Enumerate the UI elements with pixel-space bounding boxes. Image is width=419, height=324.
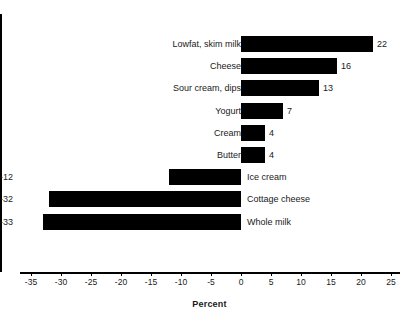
bar-row: Whole milk-33	[0, 214, 419, 230]
x-axis-title: Percent	[0, 299, 419, 309]
bar[interactable]	[49, 191, 241, 207]
zero-axis-line	[0, 14, 2, 272]
x-axis-tick-label: 10	[296, 277, 305, 287]
x-axis-tick-label: -5	[207, 277, 215, 287]
x-axis-tick-label: 25	[386, 277, 395, 287]
x-axis-tick-label: 20	[356, 277, 365, 287]
bar-row: Yogurt7	[0, 103, 419, 119]
bar-value-label: -33	[0, 216, 47, 227]
bar[interactable]	[241, 80, 319, 96]
bar-row: Lowfat, skim milk22	[0, 36, 419, 52]
bar[interactable]	[241, 58, 337, 74]
bar-row: Sour cream, dips13	[0, 80, 419, 96]
bar-value-label: 22	[373, 39, 419, 50]
x-axis-tick	[151, 272, 152, 276]
x-axis-tick-label: -25	[85, 277, 97, 287]
bar-row: Cream4	[0, 125, 419, 141]
bar[interactable]	[43, 214, 241, 230]
x-axis-tick	[121, 272, 122, 276]
x-axis-tick	[241, 272, 242, 276]
bar-row: Cottage cheese-32	[0, 191, 419, 207]
x-axis-tick	[181, 272, 182, 276]
bar-value-label: 4	[265, 150, 419, 161]
bar-category-label: Ice cream	[241, 172, 419, 183]
bar-value-label: -32	[0, 194, 53, 205]
bar-chart: Lowfat, skim milk22Cheese16Sour cream, d…	[0, 0, 419, 324]
bar[interactable]	[241, 103, 283, 119]
x-axis-tick	[211, 272, 212, 276]
x-axis-tick-label: 5	[269, 277, 274, 287]
plot-area: Lowfat, skim milk22Cheese16Sour cream, d…	[0, 0, 419, 272]
bar-category-label: Cheese	[0, 61, 246, 72]
x-axis-tick-label: -20	[115, 277, 127, 287]
bar-value-label: 13	[319, 83, 419, 94]
bar-category-label: Yogurt	[0, 105, 246, 116]
x-axis-tick	[271, 272, 272, 276]
x-axis-tick-label: -35	[25, 277, 37, 287]
bar-category-label: Butter	[0, 150, 246, 161]
bar-row: Ice cream-12	[0, 169, 419, 185]
x-axis-tick	[31, 272, 32, 276]
bar-category-label: Cream	[0, 127, 246, 138]
x-axis-tick-label: 0	[239, 277, 244, 287]
bar-value-label: 4	[265, 127, 419, 138]
bar-category-label: Whole milk	[241, 216, 419, 227]
x-axis-tick	[301, 272, 302, 276]
x-axis-tick-label: -10	[175, 277, 187, 287]
x-axis-line	[20, 272, 400, 274]
x-axis-tick-label: 15	[326, 277, 335, 287]
x-axis-tick	[331, 272, 332, 276]
bar-category-label: Cottage cheese	[241, 194, 419, 205]
x-axis-tick	[91, 272, 92, 276]
bar-value-label: -12	[0, 172, 173, 183]
bar-category-label: Sour cream, dips	[0, 83, 246, 94]
bar-row: Butter4	[0, 147, 419, 163]
x-axis-tick	[61, 272, 62, 276]
bar[interactable]	[169, 169, 241, 185]
bar-category-label: Lowfat, skim milk	[0, 39, 246, 50]
x-axis-tick-label: -15	[145, 277, 157, 287]
bar-row: Cheese16	[0, 58, 419, 74]
x-axis-tick-label: -30	[55, 277, 67, 287]
x-axis-tick	[361, 272, 362, 276]
bar[interactable]	[241, 36, 373, 52]
bar-value-label: 16	[337, 61, 419, 72]
x-axis-tick	[391, 272, 392, 276]
bar-value-label: 7	[283, 105, 419, 116]
